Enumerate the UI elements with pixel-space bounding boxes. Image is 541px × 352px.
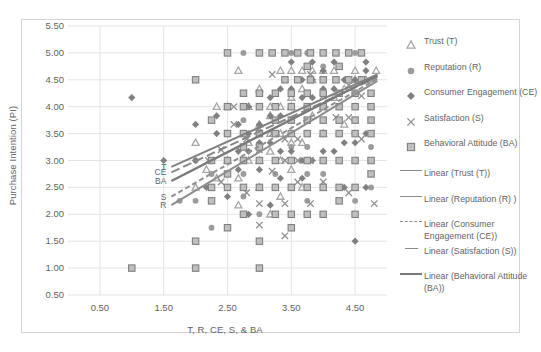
y-axis-title: Purchase Intention (PI) (7, 56, 18, 256)
legend-item[interactable]: Linear (Reputation (R) ) (398, 194, 540, 206)
y-tick-label: 4.50 (22, 74, 64, 85)
inplot-label-s: S (144, 192, 166, 202)
legend-label: Satisfaction (S) (424, 113, 484, 125)
x-marker (398, 113, 424, 129)
legend-label: Linear (Satisfaction (S)) (424, 246, 517, 258)
legend-label: Linear (Trust (T)) (424, 168, 490, 180)
legend-item[interactable]: Linear (Behavioral Attitude (BA)) (398, 271, 540, 294)
x-axis-title: T, R, CE, S, & BA (60, 324, 390, 335)
legend-label: Trust (T) (424, 36, 457, 48)
inplot-label-r: R (144, 200, 166, 210)
circle-marker (398, 62, 424, 78)
y-tick-label: 3.50 (22, 128, 64, 139)
legend-label: Linear (Behavioral Attitude (BA)) (424, 271, 540, 294)
x-tick-label: 2.50 (205, 302, 251, 313)
triangle-marker (398, 36, 424, 52)
legend-item[interactable]: Trust (T) (398, 36, 540, 52)
inplot-label-ba: BA (144, 176, 166, 186)
y-tick-label: 5.00 (22, 47, 64, 58)
y-tick-label: 1.50 (22, 235, 64, 246)
legend-item[interactable]: Linear (Consumer Engagement (CE)) (398, 219, 540, 242)
y-tick-label: 1.00 (22, 262, 64, 273)
square-marker (398, 138, 424, 154)
y-tick-label: 5.50 (22, 20, 64, 31)
thick-solid-line (398, 271, 424, 275)
legend-label: Linear (Reputation (R) ) (424, 194, 516, 206)
legend-item[interactable]: Linear (Trust (T)) (398, 168, 540, 180)
legend-label: Behavioral Attitude (BA) (424, 138, 517, 150)
y-tick-label: 2.50 (22, 181, 64, 192)
x-tick-label: 0.50 (77, 302, 123, 313)
legend-label: Reputation (R) (424, 62, 481, 74)
y-tick-label: 3.00 (22, 155, 64, 166)
dashed-line (398, 219, 424, 222)
legend-item[interactable]: Consumer Engagement (CE) (398, 87, 540, 103)
legend-label: Linear (Consumer Engagement (CE)) (424, 219, 540, 242)
legend-item[interactable]: Satisfaction (S) (398, 113, 540, 129)
x-tick-label: 3.50 (268, 302, 314, 313)
trendline-t (171, 74, 377, 167)
solid-line (398, 168, 424, 171)
y-tick-label: 4.00 (22, 101, 64, 112)
short-dash-line (398, 246, 424, 249)
legend-item[interactable]: Behavioral Attitude (BA) (398, 138, 540, 154)
legend-item[interactable]: Linear (Satisfaction (S)) (398, 246, 540, 258)
legend-item[interactable]: Reputation (R) (398, 62, 540, 78)
y-tick-label: 0.50 (22, 289, 64, 300)
solid-line (398, 194, 424, 197)
diamond-marker (398, 87, 424, 103)
y-tick-label: 2.00 (22, 208, 64, 219)
legend-label: Consumer Engagement (CE) (424, 87, 537, 99)
x-tick-label: 4.50 (332, 302, 378, 313)
x-tick-label: 1.50 (141, 302, 187, 313)
